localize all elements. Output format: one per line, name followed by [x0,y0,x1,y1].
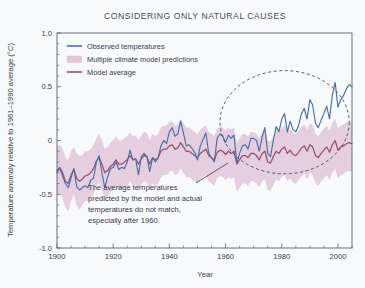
x-axis-title: Year [197,270,213,279]
annotation-line: The average temperatures [88,183,178,192]
legend-label: Observed temperatures [87,42,165,51]
y-tick-label: 0.5 [41,82,52,91]
y-tick-label: -0.5 [39,190,52,199]
legend-label: Model average [87,68,136,77]
chart-title: CONSIDERING ONLY NATURAL CAUSES [104,11,286,21]
legend-label: Multiple climate model predictions [87,55,198,64]
x-tick-label: 2000 [329,252,346,261]
annotation-line: especially after 1960. [88,216,160,225]
x-tick-label: 1900 [49,252,66,261]
y-tick-label: 0 [48,136,52,145]
x-tick-label: 1960 [217,252,234,261]
climate-chart-figure: CONSIDERING ONLY NATURAL CAUSES -1.0-0.5… [0,0,365,288]
annotation-line: temperatures do not match, [88,205,181,214]
x-tick-label: 1980 [273,252,290,261]
y-axis-title: Temperature anomaly relative to 1961–199… [6,43,15,237]
x-tick-label: 1940 [161,252,178,261]
x-tick-label: 1920 [105,252,122,261]
y-tick-label: 1.0 [41,29,52,38]
legend-swatch-band [67,56,82,63]
chart-canvas: CONSIDERING ONLY NATURAL CAUSES -1.0-0.5… [0,0,365,288]
annotation-line: predicted by the model and actual [88,194,202,203]
